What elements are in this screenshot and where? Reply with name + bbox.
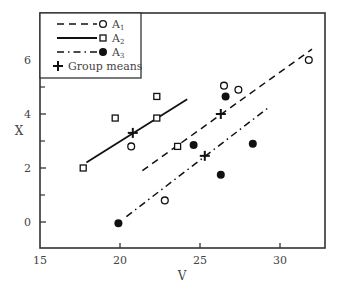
legend-marker xyxy=(100,35,106,41)
regression-line-a2 xyxy=(86,99,187,162)
data-point-a1 xyxy=(235,86,242,93)
data-points xyxy=(80,57,312,228)
x-tick-label: 15 xyxy=(33,254,47,267)
y-axis-label: X xyxy=(15,124,24,138)
data-point-a3 xyxy=(249,140,257,148)
y-tick-label: 0 xyxy=(24,216,31,229)
data-point-a3 xyxy=(222,92,230,100)
legend-marker xyxy=(100,21,107,28)
legend-label: Group means xyxy=(68,60,143,73)
data-point-a1 xyxy=(305,57,312,64)
data-point-a3 xyxy=(190,141,198,149)
x-tick-label: 30 xyxy=(273,254,287,267)
data-point-a2 xyxy=(80,165,86,171)
data-point-a2 xyxy=(175,143,181,149)
data-point-a2 xyxy=(154,93,160,99)
data-point-a1 xyxy=(161,197,168,204)
y-tick-label: 4 xyxy=(24,108,31,121)
chart-canvas: 152025300246 A1A2A3Group means V X xyxy=(0,0,338,290)
x-tick-label: 20 xyxy=(113,254,127,267)
group-mean-a1 xyxy=(216,109,226,119)
legend: A1A2A3Group means xyxy=(40,13,143,78)
data-point-a1 xyxy=(128,143,135,150)
scatter-chart: 152025300246 A1A2A3Group means V X xyxy=(0,0,338,290)
x-axis-label: V xyxy=(177,269,187,283)
data-point-a2 xyxy=(112,115,118,121)
data-point-a3 xyxy=(217,171,225,179)
legend-marker xyxy=(99,48,107,56)
y-tick-label: 2 xyxy=(24,162,31,175)
regression-line-a1 xyxy=(142,49,312,171)
data-point-a3 xyxy=(114,219,122,227)
x-tick-label: 25 xyxy=(193,254,207,267)
data-point-a1 xyxy=(221,82,228,89)
data-point-a2 xyxy=(154,115,160,121)
y-tick-label: 6 xyxy=(24,54,31,67)
